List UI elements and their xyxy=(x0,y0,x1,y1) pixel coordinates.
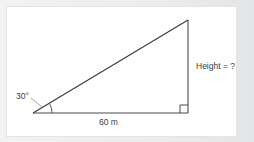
angle-arc xyxy=(50,104,53,114)
diagram-canvas: 30° 60 m Height = ? xyxy=(0,0,254,142)
base-length-label: 60 m xyxy=(99,118,118,127)
angle-label: 30° xyxy=(16,92,29,101)
angle-leader-line xyxy=(31,98,42,107)
triangle-hypotenuse-line xyxy=(33,20,188,113)
right-angle-marker xyxy=(180,105,188,113)
height-label: Height = ? xyxy=(196,62,235,71)
triangle-figure xyxy=(0,0,254,142)
